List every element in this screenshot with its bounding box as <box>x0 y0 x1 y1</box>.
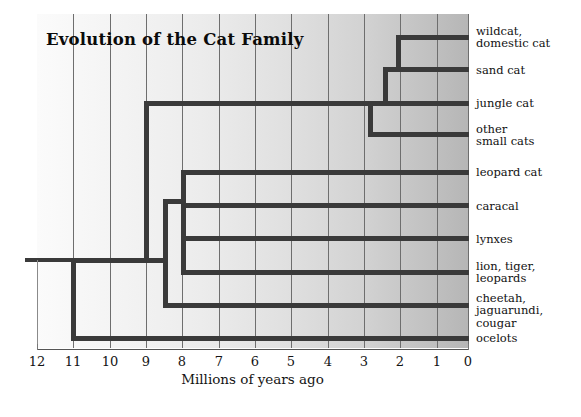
leaf-label-jungle-cat: jungle cat <box>476 97 534 109</box>
branch-other-small-cats <box>368 132 469 137</box>
tick-12 <box>37 344 38 350</box>
branch-cheetah-group <box>163 303 469 308</box>
tick-0 <box>468 344 469 350</box>
gridline-5 <box>291 14 292 348</box>
node-8mya-split <box>181 170 186 275</box>
leaf-label-leopard-cat: leopard cat <box>476 166 542 178</box>
tick-label-8: 8 <box>167 354 197 369</box>
branch-jungle-cat <box>368 101 469 106</box>
tick-label-2: 2 <box>385 354 415 369</box>
x-axis-line <box>37 349 469 350</box>
node-jungle-cat-split <box>383 67 388 105</box>
branch-lynxes <box>181 236 469 241</box>
branch-ocelots <box>71 336 469 341</box>
gridline-1 <box>437 14 438 348</box>
tick-label-3: 3 <box>349 354 379 369</box>
leaf-label-lynxes: lynxes <box>476 233 513 245</box>
gridline-0 <box>468 14 469 348</box>
leaf-label-cheetah-jaguarundi-cougar: cheetah, jaguarundi, cougar <box>476 292 543 329</box>
node-ocelot-split <box>71 258 76 341</box>
tick-label-6: 6 <box>240 354 270 369</box>
branch-leopard-cat <box>181 170 469 175</box>
root-dropline <box>37 260 38 349</box>
branch-to-felid-node <box>71 258 150 263</box>
gridline-6 <box>255 14 256 348</box>
chart-title: Evolution of the Cat Family <box>46 30 303 49</box>
node-8_5mya-split <box>163 199 168 304</box>
plot-panel <box>37 14 468 348</box>
tick-label-11: 11 <box>58 354 88 369</box>
leaf-label-sand-cat: sand cat <box>476 64 525 76</box>
branch-sand-cat <box>383 67 469 72</box>
x-axis-label: Millions of years ago <box>0 371 505 387</box>
gridline-3 <box>364 14 365 348</box>
figure-root: 12 11 10 9 8 7 6 5 4 3 2 1 0 Millions of… <box>0 0 581 417</box>
leaf-label-wildcat-domestic-cat: wildcat, domestic cat <box>476 25 550 50</box>
node-9mya-split <box>144 101 149 263</box>
leaf-label-ocelots: ocelots <box>476 332 517 344</box>
gridline-10 <box>110 14 111 348</box>
tick-label-1: 1 <box>422 354 452 369</box>
tick-label-0: 0 <box>453 354 483 369</box>
leaf-label-other-small-cats: other small cats <box>476 123 535 148</box>
branch-panthera <box>181 270 469 275</box>
branch-caracal <box>181 203 469 208</box>
tick-label-10: 10 <box>95 354 125 369</box>
gridline-7 <box>219 14 220 348</box>
leaf-label-caracal: caracal <box>476 200 519 212</box>
tick-label-5: 5 <box>276 354 306 369</box>
tick-label-4: 4 <box>313 354 343 369</box>
node-other-small-cats-split <box>368 101 373 136</box>
gridline-4 <box>328 14 329 348</box>
node-wildcat-sandcat-split <box>396 35 401 71</box>
tick-label-9: 9 <box>131 354 161 369</box>
root-stem <box>25 258 75 262</box>
branch-felis-lineage <box>144 101 372 106</box>
branch-wildcat-domestic-cat <box>396 35 469 40</box>
tick-label-12: 12 <box>22 354 52 369</box>
leaf-label-lion-tiger-leopards: lion, tiger, leopards <box>476 260 535 285</box>
tick-label-7: 7 <box>204 354 234 369</box>
